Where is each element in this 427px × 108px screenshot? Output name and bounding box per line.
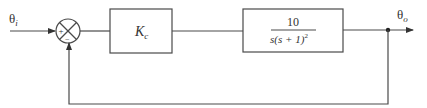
block-diagram: θi + − Kc 10 s(s + 1)2 θo <box>0 0 427 108</box>
output-label: θo <box>397 7 408 24</box>
minus-sign: − <box>65 35 70 44</box>
plant-numerator: 10 <box>287 15 299 29</box>
controller-block: Kc <box>110 9 172 53</box>
plant-denominator: s(s + 1)2 <box>270 32 308 46</box>
plant-block: 10 s(s + 1)2 <box>243 9 343 52</box>
plus-sign: + <box>59 26 64 36</box>
summing-junction: + − <box>56 19 80 44</box>
input-label: θi <box>9 11 18 28</box>
